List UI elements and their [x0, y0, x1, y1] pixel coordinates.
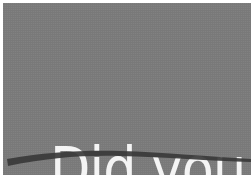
swoosh-underline-icon	[0, 0, 251, 175]
